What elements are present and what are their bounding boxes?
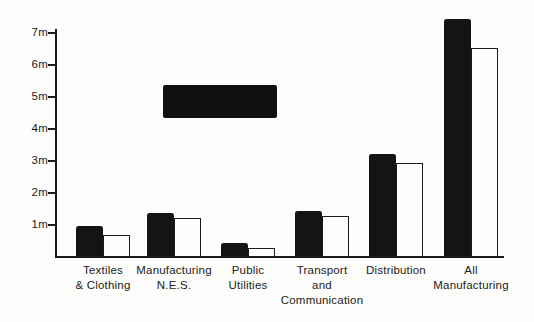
x-axis-line — [55, 256, 504, 258]
y-tick-label: 2m — [18, 184, 48, 200]
bar-black-5 — [444, 19, 471, 256]
bar-white-0 — [103, 235, 130, 256]
bar-black-0 — [76, 226, 103, 256]
y-tick-label: 5m — [18, 88, 48, 104]
plot-area: 1m2m3m4m5m6m7mTextiles & ClothingManufac… — [0, 0, 534, 322]
y-tick-label: 6m — [18, 56, 48, 72]
bar-white-2 — [248, 248, 275, 256]
y-tick-mark — [48, 128, 55, 130]
y-axis-line — [55, 29, 57, 257]
unlabeled-black-block — [163, 85, 277, 119]
bar-black-1 — [147, 213, 174, 256]
y-tick-mark — [48, 96, 55, 98]
y-tick-mark — [48, 192, 55, 194]
y-tick-mark — [48, 224, 55, 226]
y-tick-label: 1m — [18, 216, 48, 232]
bar-black-4 — [369, 154, 396, 256]
y-tick-mark — [48, 160, 55, 162]
y-tick-label: 7m — [18, 24, 48, 40]
bar-white-4 — [396, 163, 423, 256]
bar-white-5 — [471, 48, 498, 256]
bar-black-3 — [295, 211, 322, 256]
bar-chart-figure: 1m2m3m4m5m6m7mTextiles & ClothingManufac… — [0, 0, 534, 322]
y-tick-mark — [48, 64, 55, 66]
y-tick-mark — [48, 32, 55, 34]
bar-white-3 — [322, 216, 349, 256]
bar-black-2 — [221, 243, 248, 256]
y-tick-label: 3m — [18, 152, 48, 168]
bar-white-1 — [174, 218, 201, 256]
category-label-5: All Manufacturing — [409, 263, 533, 293]
y-tick-label: 4m — [18, 120, 48, 136]
